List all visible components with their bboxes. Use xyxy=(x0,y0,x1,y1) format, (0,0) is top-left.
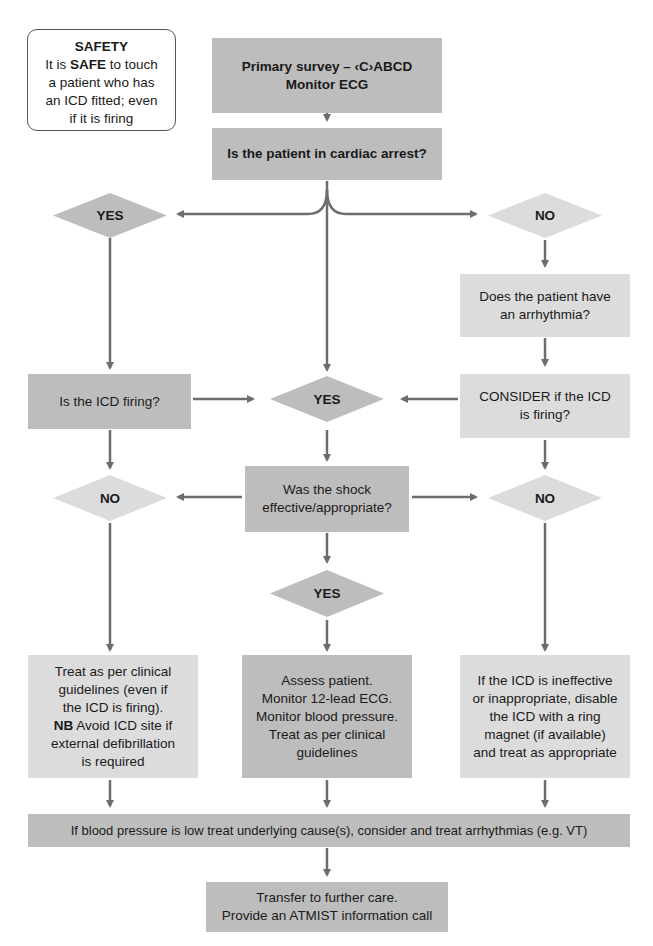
bp-low-text: If blood pressure is low treat underlyin… xyxy=(71,822,588,840)
treat-line-4: NB Avoid ICD site if xyxy=(54,717,172,735)
arrhythmia-question-box: Does the patient have an arrhythmia? xyxy=(460,274,630,337)
treat-line-5: external defibrillation xyxy=(51,735,175,753)
treat-line-4-post: Avoid ICD site if xyxy=(73,718,172,733)
consider-icd-line-2: is firing? xyxy=(520,406,570,424)
arrhythmia-line-2: an arrhythmia? xyxy=(500,306,590,324)
assess-line-1: Assess patient. xyxy=(281,672,373,690)
treat-line-3: the ICD is firing). xyxy=(63,699,164,717)
safety-line-4: if it is firing xyxy=(28,110,175,128)
no-right-diamond: NO xyxy=(488,193,602,238)
safety-note: SAFETY It is SAFE to touch a patient who… xyxy=(27,29,176,131)
assess-line-2: Monitor 12-lead ECG. xyxy=(262,690,393,708)
yes-center-label: YES xyxy=(313,392,340,407)
shock-question-box: Was the shock effective/appropriate? xyxy=(245,466,409,532)
treat-line-6: is required xyxy=(81,753,144,771)
consider-icd-line-1: CONSIDER if the ICD xyxy=(479,388,610,406)
yes-center-2-label: YES xyxy=(313,586,340,601)
no-right-2-label: NO xyxy=(535,491,555,506)
safety-line-1-bold: SAFE xyxy=(70,57,106,72)
assess-line-4: Treat as per clinical xyxy=(269,726,386,744)
safety-title: SAFETY xyxy=(28,38,175,56)
icd-firing-question: Is the ICD firing? xyxy=(59,393,160,411)
treat-line-4-bold: NB xyxy=(54,718,74,733)
treat-line-2: guidelines (even if xyxy=(59,681,168,699)
shock-question-line-1: Was the shock xyxy=(283,481,371,499)
transfer-line-2: Provide an ATMIST information call xyxy=(222,907,432,925)
no-left-label: NO xyxy=(100,491,120,506)
safety-line-3: an ICD fitted; even xyxy=(28,92,175,110)
safety-line-1-pre: It is xyxy=(45,57,70,72)
disable-icd-box: If the ICD is ineffective or inappropria… xyxy=(460,655,630,778)
primary-survey-box: Primary survey – ‹C›ABCD Monitor ECG xyxy=(212,38,442,113)
no-left-diamond: NO xyxy=(53,475,167,521)
transfer-box: Transfer to further care. Provide an ATM… xyxy=(206,882,448,932)
disable-line-5: and treat as appropriate xyxy=(473,744,616,762)
transfer-line-1: Transfer to further care. xyxy=(256,889,397,907)
disable-line-1: If the ICD is ineffective xyxy=(478,672,613,690)
primary-survey-line-2: Monitor ECG xyxy=(286,76,369,94)
disable-line-4: magnet (if available) xyxy=(484,726,606,744)
yes-left-label: YES xyxy=(96,208,123,223)
icd-firing-question-box: Is the ICD firing? xyxy=(28,374,191,429)
yes-center-diamond: YES xyxy=(270,376,384,422)
consider-icd-box: CONSIDER if the ICD is firing? xyxy=(460,374,630,438)
treat-line-1: Treat as per clinical xyxy=(55,663,172,681)
safety-line-1-post: to touch xyxy=(106,57,158,72)
bp-low-box: If blood pressure is low treat underlyin… xyxy=(28,814,630,847)
no-right-2-diamond: NO xyxy=(488,475,602,521)
arrhythmia-line-1: Does the patient have xyxy=(479,288,610,306)
cardiac-arrest-question-box: Is the patient in cardiac arrest? xyxy=(212,128,442,180)
assess-patient-box: Assess patient. Monitor 12-lead ECG. Mon… xyxy=(242,655,412,778)
cardiac-arrest-question: Is the patient in cardiac arrest? xyxy=(227,145,427,163)
assess-line-5: guidelines xyxy=(297,744,358,762)
primary-survey-line-1: Primary survey – ‹C›ABCD xyxy=(242,58,412,76)
assess-line-3: Monitor blood pressure. xyxy=(256,708,398,726)
yes-center-2-diamond: YES xyxy=(270,570,384,617)
treat-guidelines-box: Treat as per clinical guidelines (even i… xyxy=(28,655,198,778)
disable-line-2: or inappropriate, disable xyxy=(473,690,618,708)
shock-question-line-2: effective/appropriate? xyxy=(262,499,392,517)
safety-line-2: a patient who has xyxy=(28,74,175,92)
safety-line-1: It is SAFE to touch xyxy=(28,56,175,74)
no-right-label: NO xyxy=(535,208,555,223)
disable-line-3: the ICD with a ring xyxy=(489,708,600,726)
yes-left-diamond: YES xyxy=(53,193,167,238)
